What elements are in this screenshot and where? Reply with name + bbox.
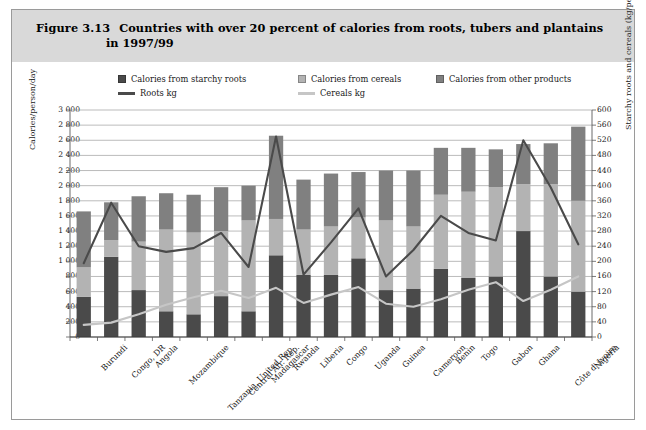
- bar-segment: [434, 148, 448, 195]
- bar-segment: [379, 290, 393, 337]
- bar-segment: [186, 314, 200, 337]
- bar-segment: [104, 240, 118, 257]
- chart-canvas: [0, 0, 646, 430]
- bar-segment: [77, 211, 91, 267]
- bar-segment: [159, 230, 173, 312]
- bar-segment: [461, 278, 475, 337]
- bar-segment: [571, 292, 585, 337]
- bar-segment: [269, 136, 283, 219]
- bar-segment: [296, 275, 310, 337]
- bar-segment: [516, 231, 530, 337]
- bar-segment: [241, 186, 255, 221]
- bar-segment: [544, 276, 558, 337]
- bar-segment: [324, 227, 338, 275]
- bar-segment: [77, 267, 91, 297]
- bar-segment: [269, 219, 283, 255]
- bar-segment: [214, 231, 228, 296]
- bar-segment: [516, 184, 530, 231]
- bar-segment: [406, 289, 420, 337]
- bar-segment: [104, 202, 118, 240]
- bar-segment: [461, 148, 475, 192]
- bar-segment: [324, 275, 338, 337]
- bar-segment: [186, 195, 200, 233]
- bar-segment: [132, 242, 146, 290]
- bar-segment: [159, 311, 173, 337]
- bar-segment: [571, 127, 585, 201]
- bar-segment: [269, 255, 283, 337]
- bar-segment: [379, 220, 393, 290]
- figure-page: Figure 3.13Countries with over 20 percen…: [0, 0, 646, 430]
- bar-segment: [159, 193, 173, 229]
- bar-segment: [379, 171, 393, 221]
- bar-segment: [406, 227, 420, 289]
- bar-segment: [406, 171, 420, 227]
- bar-segment: [77, 297, 91, 337]
- bar-segment: [434, 269, 448, 337]
- bar-segment: [489, 149, 503, 187]
- bar-segment: [351, 258, 365, 337]
- bar-series-group: [77, 127, 586, 337]
- bar-segment: [214, 187, 228, 231]
- bar-segment: [434, 195, 448, 269]
- bar-segment: [489, 187, 503, 276]
- bar-segment: [132, 196, 146, 241]
- bar-segment: [241, 311, 255, 337]
- bar-segment: [214, 296, 228, 337]
- bar-segment: [104, 257, 118, 337]
- bar-segment: [351, 217, 365, 258]
- bar-segment: [296, 180, 310, 230]
- bar-segment: [324, 174, 338, 227]
